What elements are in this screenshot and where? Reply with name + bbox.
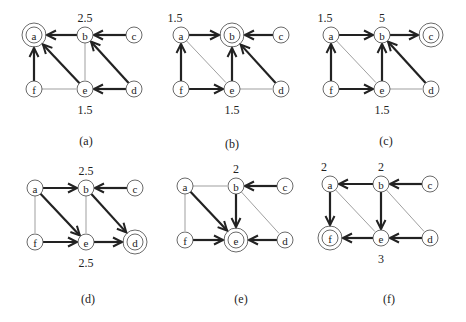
edge-e-b-directed — [378, 44, 387, 81]
panel-caption: (b) — [225, 137, 239, 151]
svg-text:a: a — [179, 30, 184, 42]
node-b: b — [374, 27, 390, 43]
edge-b-a-directed — [47, 31, 77, 40]
svg-text:f: f — [179, 84, 183, 96]
node-b: b — [77, 27, 93, 43]
edge-c-b-directed — [245, 31, 273, 40]
weight-label-e: 3 — [378, 252, 384, 266]
edge-a-e-directed — [40, 194, 79, 236]
weight-label-e: 2.5 — [79, 256, 94, 270]
node-b: b — [373, 176, 389, 192]
edge-b-e-directed — [377, 192, 386, 229]
weight-label-e: 1.5 — [225, 103, 240, 117]
edge-e-a-directed — [43, 44, 80, 83]
node-a: a — [27, 180, 43, 196]
node-d-target: d — [123, 230, 147, 254]
node-a: a — [323, 27, 339, 43]
svg-text:f: f — [329, 84, 333, 96]
node-d: d — [273, 81, 289, 97]
svg-text:f: f — [328, 233, 332, 245]
edge-b-d-directed — [91, 194, 126, 232]
node-f: f — [173, 81, 189, 97]
edge-c-b-directed — [245, 182, 277, 191]
svg-text:e: e — [234, 235, 239, 247]
weight-label-e: 1.5 — [78, 103, 93, 117]
node-e: e — [224, 81, 240, 97]
weight-label-b: 2 — [378, 160, 384, 174]
svg-text:a: a — [328, 179, 333, 191]
edge-a-e-undirected — [335, 190, 374, 232]
edge-b-d-undirected — [241, 192, 279, 233]
svg-text:f: f — [183, 235, 187, 247]
svg-text:e: e — [380, 84, 385, 96]
edge-e-f-directed — [343, 234, 373, 243]
panel-caption: (d) — [81, 292, 95, 306]
panel-a: abcfed2.51.5(a) — [22, 11, 142, 148]
edge-a-b-directed — [43, 184, 77, 193]
node-c: c — [273, 27, 289, 43]
svg-text:c: c — [283, 181, 288, 193]
node-d: d — [422, 230, 438, 246]
node-b: b — [228, 178, 244, 194]
svg-text:d: d — [278, 84, 284, 96]
svg-text:b: b — [82, 30, 88, 42]
node-a: a — [173, 27, 189, 43]
node-d: d — [423, 81, 439, 97]
panel-b: abcfed1.51.5(b) — [168, 11, 290, 151]
node-c: c — [422, 176, 438, 192]
svg-text:f: f — [33, 237, 37, 249]
weight-label-a: 1.5 — [168, 11, 183, 25]
svg-text:c: c — [279, 30, 284, 42]
edge-b-d-undirected — [386, 190, 424, 231]
node-c: c — [127, 180, 143, 196]
edge-d-b-directed — [388, 42, 426, 83]
edge-b-a-directed — [339, 180, 373, 189]
node-e: e — [77, 81, 93, 97]
edge-e-d-directed — [94, 238, 122, 247]
weight-label-e: 1.5 — [375, 103, 390, 117]
panel-f: abcfed223(f) — [318, 160, 438, 306]
weight-label-a: 1.5 — [318, 11, 333, 25]
edge-d-b-directed — [241, 45, 276, 83]
weight-label-b: 2.5 — [78, 11, 93, 25]
node-f-target: f — [318, 226, 342, 250]
svg-text:a: a — [183, 181, 188, 193]
edge-a-b-directed — [189, 31, 219, 40]
edge-f-e-directed — [193, 236, 223, 245]
svg-text:a: a — [33, 183, 38, 195]
svg-text:a: a — [329, 30, 334, 42]
edge-a-e-undirected — [186, 41, 225, 83]
panel-caption: (a) — [79, 134, 92, 148]
node-c-target: c — [419, 23, 443, 47]
svg-text:e: e — [84, 237, 89, 249]
svg-text:c: c — [429, 30, 434, 42]
edge-f-a-directed — [327, 44, 336, 81]
svg-text:b: b — [379, 30, 385, 42]
edge-a-e-directed — [190, 192, 227, 231]
edge-d-b-directed — [91, 42, 129, 83]
node-a: a — [322, 176, 338, 192]
edge-c-b-directed — [95, 184, 127, 193]
edge-c-b-directed — [390, 180, 422, 189]
edge-a-e-undirected — [336, 41, 375, 83]
svg-text:e: e — [379, 233, 384, 245]
svg-text:a: a — [32, 30, 37, 42]
node-b-target: b — [220, 23, 244, 47]
svg-text:f: f — [32, 84, 36, 96]
weight-label-b: 5 — [379, 11, 385, 25]
svg-text:d: d — [131, 84, 137, 96]
svg-text:b: b — [229, 30, 235, 42]
edge-f-e-directed — [339, 85, 373, 94]
svg-text:c: c — [132, 30, 137, 42]
edge-d-e-directed — [390, 234, 422, 243]
node-f: f — [27, 234, 43, 250]
edge-b-c-directed — [390, 31, 418, 40]
edge-a-f-directed — [326, 192, 335, 225]
svg-text:c: c — [428, 179, 433, 191]
edge-d-e-directed — [249, 236, 277, 245]
node-f: f — [26, 81, 42, 97]
panel-c: abcfed1.551.5(c) — [318, 11, 444, 148]
edge-f-e-directed — [189, 85, 223, 94]
svg-text:d: d — [427, 233, 433, 245]
node-b: b — [78, 180, 94, 196]
